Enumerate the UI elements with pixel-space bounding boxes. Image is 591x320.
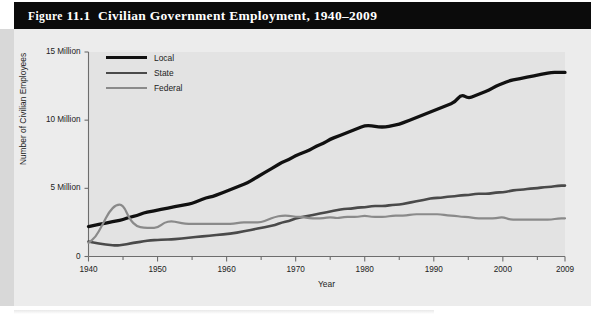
legend-label-federal: Federal <box>154 83 182 93</box>
x-axis-tick-label: 1970 <box>276 265 316 274</box>
x-axis-tick-label: 1950 <box>138 265 178 274</box>
x-axis-tick-label: 2000 <box>483 265 523 274</box>
x-axis-tick-label: 1960 <box>207 265 247 274</box>
legend-label-local: Local <box>154 53 174 63</box>
cut-off-caption-text <box>14 310 434 314</box>
x-axis-label: Year <box>88 279 565 289</box>
legend-item-state: State <box>106 65 236 80</box>
x-axis-tick-label: 1940 <box>69 265 109 274</box>
legend-swatch-federal <box>106 87 147 89</box>
x-axis-ticks <box>89 257 566 262</box>
series-group <box>89 72 566 245</box>
x-axis-tick-label: 1980 <box>345 265 385 274</box>
legend-label-state: State <box>154 68 174 78</box>
x-axis-tick-label: 2009 <box>545 265 585 274</box>
legend-item-local: Local <box>106 50 236 65</box>
chart-legend: LocalStateFederal <box>106 50 236 95</box>
series-line-state <box>89 186 566 246</box>
legend-swatch-state <box>106 72 147 74</box>
figure-container: Figure 11.1 Civilian Government Employme… <box>0 0 591 320</box>
series-line-local <box>89 72 566 226</box>
y-axis-label: Number of Civilian Employees <box>18 34 28 184</box>
y-axis-tick-label: 5 Million <box>19 183 81 192</box>
legend-swatch-local <box>106 56 147 59</box>
x-axis-tick-label: 1990 <box>414 265 454 274</box>
y-axis-tick-label: 0 <box>19 252 81 261</box>
legend-item-federal: Federal <box>106 80 236 95</box>
